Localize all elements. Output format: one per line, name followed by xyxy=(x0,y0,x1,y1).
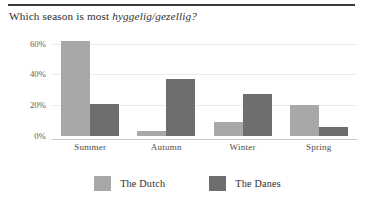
legend-swatch-icon xyxy=(94,176,111,191)
x-axis-tick-label: Summer xyxy=(52,142,128,158)
bar[interactable] xyxy=(290,105,319,136)
bar[interactable] xyxy=(61,41,90,136)
bar-group xyxy=(128,36,204,136)
bar[interactable] xyxy=(214,122,243,136)
y-axis-tick-label: 0% xyxy=(34,131,46,141)
bar-group xyxy=(205,36,281,136)
legend-swatch-icon xyxy=(209,176,226,191)
y-axis-tick-label: 60% xyxy=(30,39,46,49)
y-axis-tick-label: 40% xyxy=(30,69,46,79)
chart-title-prefix: Which season is most xyxy=(9,10,112,22)
chart-figure: Which season is most hyggelig/gezellig? … xyxy=(0,0,375,205)
bar-group xyxy=(52,36,128,136)
x-axis-tick-label: Spring xyxy=(281,142,357,158)
y-axis-tick-label: 20% xyxy=(30,100,46,110)
legend-label: The Danes xyxy=(235,178,281,189)
x-axis-labels: SummerAutumnWinterSpring xyxy=(52,142,357,158)
bar[interactable] xyxy=(166,79,195,136)
plot-area: 0%20%40%60% xyxy=(0,36,375,140)
x-axis-tick-label: Winter xyxy=(205,142,281,158)
chart-title: Which season is most hyggelig/gezellig? xyxy=(9,9,359,23)
legend-label: The Dutch xyxy=(120,178,165,189)
bar-group xyxy=(281,36,357,136)
bar[interactable] xyxy=(319,127,348,136)
bar[interactable] xyxy=(243,94,272,136)
bar-groups xyxy=(52,36,357,136)
legend-item[interactable]: The Danes xyxy=(209,176,281,191)
chart-legend: The DutchThe Danes xyxy=(0,172,375,194)
x-axis-tick-label: Autumn xyxy=(128,142,204,158)
top-divider-rule xyxy=(8,4,355,6)
y-axis: 0%20%40%60% xyxy=(0,36,52,140)
bar[interactable] xyxy=(137,131,166,136)
x-axis-baseline xyxy=(52,139,357,140)
legend-item[interactable]: The Dutch xyxy=(94,176,165,191)
chart-title-emphasis: hyggelig/gezellig? xyxy=(112,10,197,22)
bar[interactable] xyxy=(90,104,119,136)
